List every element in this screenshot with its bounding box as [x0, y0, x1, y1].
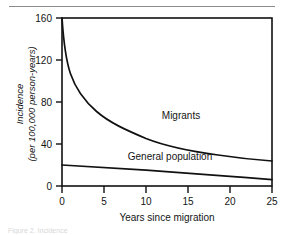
x-axis-ticks: [62, 186, 272, 193]
y-axis-ticks: [56, 18, 62, 186]
figure-caption-sliver: Figure 2. Incidence: [8, 227, 208, 234]
y-tick-label-40: 40: [41, 139, 53, 150]
y-axis-title-line1: Incidence: [14, 84, 25, 125]
x-axis-title: Years since migration: [119, 212, 214, 223]
y-tick-label-120: 120: [35, 55, 52, 66]
series-label-general-population: General population: [128, 151, 213, 162]
y-tick-label-0: 0: [46, 181, 52, 192]
x-tick-label-0: 0: [59, 196, 65, 207]
x-tick-label-10: 10: [140, 196, 152, 207]
y-tick-label-160: 160: [35, 13, 52, 24]
y-tick-label-80: 80: [41, 97, 53, 108]
x-tick-label-20: 20: [224, 196, 236, 207]
figure-root: 160 120 80 40 0 0 5 10 15 20 25 Years si…: [0, 0, 283, 235]
incidence-line-chart: 160 120 80 40 0 0 5 10 15 20 25 Years si…: [0, 0, 283, 235]
x-tick-label-5: 5: [101, 196, 107, 207]
x-tick-label-25: 25: [266, 196, 278, 207]
series-label-migrants: Migrants: [162, 110, 200, 121]
x-tick-label-15: 15: [182, 196, 194, 207]
y-axis-title-line2: (per 100,000 person-years): [26, 46, 37, 161]
